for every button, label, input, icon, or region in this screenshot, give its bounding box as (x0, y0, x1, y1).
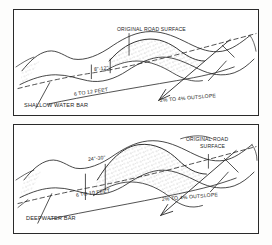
caption-deepwater-bar: DEEPWATER BAR (26, 215, 76, 221)
panel-shallow-water-bar: ORIGINAL ROAD SURFACE 8"-12" 6 TO 12 FEE… (13, 9, 259, 116)
cutbank-texture (20, 61, 40, 85)
right-hillside-edge (250, 36, 256, 52)
panel-deepwater-bar: ORIGINAL ROAD SURFACE 24"-30" 6 TO 10 FE… (13, 124, 259, 234)
right-hillside-edge (252, 145, 257, 161)
label-original-road-surface-line1: ORIGINAL ROAD (186, 137, 228, 143)
diagram-sheet: ORIGINAL ROAD SURFACE 8"-12" 6 TO 12 FEE… (0, 0, 272, 245)
caption-shallow-water-bar: SHALLOW WATER BAR (24, 102, 88, 108)
label-original-road-surface-line2: SURFACE (200, 144, 225, 150)
outslope-cross-tick (224, 158, 238, 172)
label-original-road-surface: ORIGINAL ROAD SURFACE (117, 27, 186, 33)
cutbank-texture (20, 170, 42, 197)
